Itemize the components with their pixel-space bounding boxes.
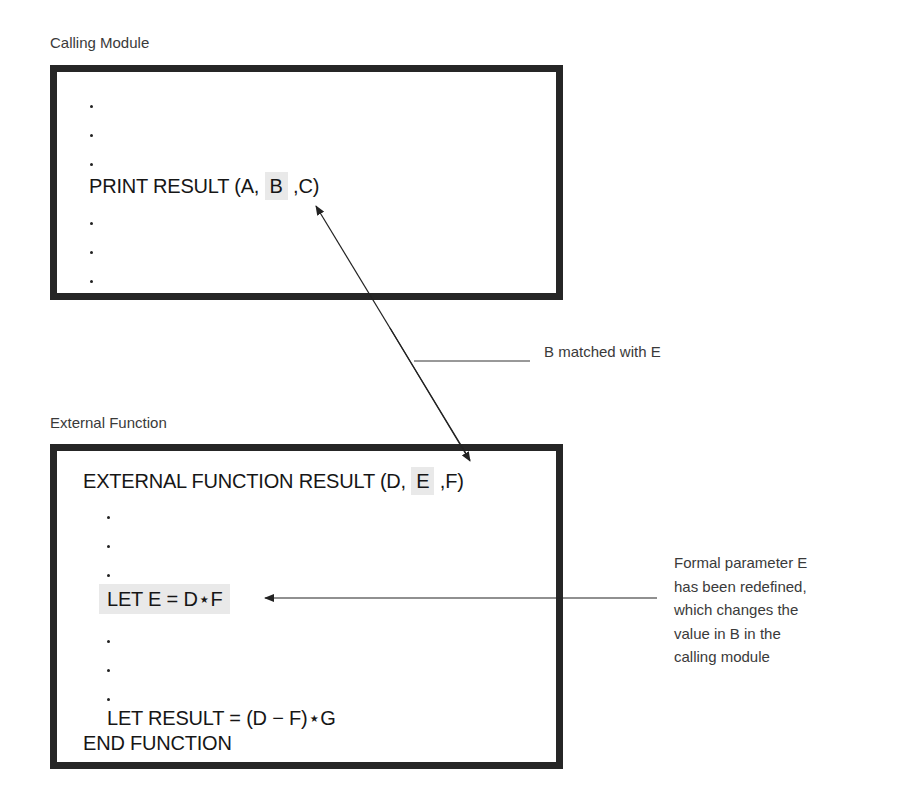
end-function-line: END FUNCTION [83, 732, 232, 755]
ellipsis-dot [107, 574, 110, 577]
ellipsis-dot [90, 105, 93, 108]
note-line: Formal parameter E [674, 551, 807, 575]
header-suffix: ,F) [434, 470, 463, 492]
ellipsis-dot [107, 669, 110, 672]
note-line: value in B in the [674, 622, 807, 646]
ellipsis-dot [107, 640, 110, 643]
ellipsis-dot [90, 251, 93, 254]
external-function-caption: External Function [50, 414, 167, 431]
b-e-match-arrow-lower [390, 328, 470, 461]
ellipsis-dot [90, 222, 93, 225]
calling-module-caption: Calling Module [50, 34, 149, 51]
ellipsis-dot [90, 163, 93, 166]
redefine-note: Formal parameter E has been redefined, w… [674, 551, 807, 669]
ellipsis-dot [107, 545, 110, 548]
call-suffix: ,C) [288, 175, 319, 197]
result-line: LET RESULT = (D − F)⋆G [107, 706, 336, 730]
ellipsis-dot [90, 280, 93, 283]
note-line: has been redefined, [674, 575, 807, 599]
external-function-box: EXTERNAL FUNCTION RESULT (D, E ,F) LET E… [50, 444, 563, 769]
formal-parameter-e: E [411, 467, 434, 495]
call-prefix: PRINT RESULT (A, [89, 175, 265, 197]
match-label: B matched with E [544, 343, 661, 360]
ellipsis-dot [107, 698, 110, 701]
ellipsis-dot [107, 516, 110, 519]
note-line: calling module [674, 645, 807, 669]
note-line: which changes the [674, 598, 807, 622]
ellipsis-dot [90, 134, 93, 137]
actual-argument-b: B [265, 172, 288, 200]
header-prefix: EXTERNAL FUNCTION RESULT (D, [83, 470, 411, 492]
redefine-line: LET E = D⋆F [99, 584, 230, 614]
calling-module-box: PRINT RESULT (A, B ,C) [50, 65, 563, 300]
function-header: EXTERNAL FUNCTION RESULT (D, E ,F) [83, 470, 464, 493]
print-result-call: PRINT RESULT (A, B ,C) [89, 175, 319, 198]
